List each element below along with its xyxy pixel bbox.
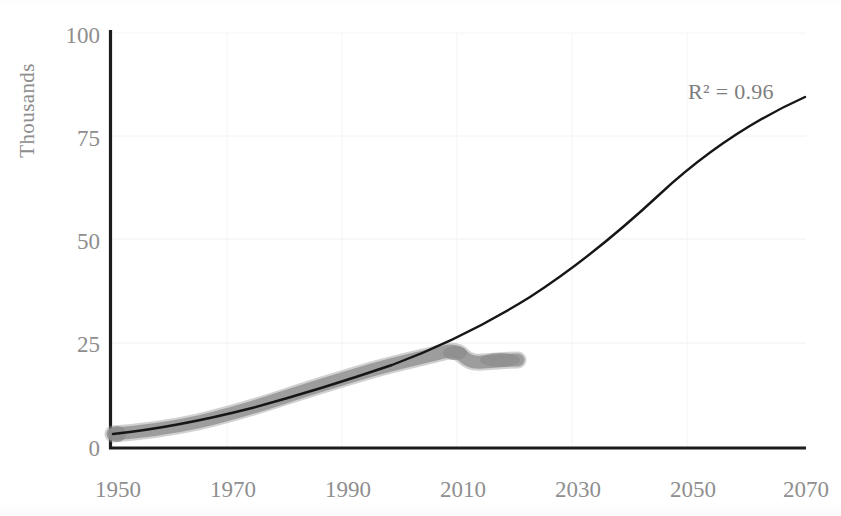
chart-plot-area (0, 0, 841, 516)
observed-data-band (108, 346, 520, 442)
chart-container: Thousands 100 75 50 25 0 1950 1970 1990 … (0, 0, 841, 516)
exponential-trendline (113, 97, 805, 434)
gridlines (112, 33, 806, 447)
